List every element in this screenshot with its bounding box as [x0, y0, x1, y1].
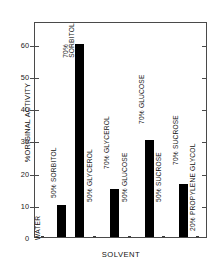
y-axis-tick-label: 40	[21, 106, 29, 113]
y-axis-tick-label: 0	[25, 235, 29, 242]
y-axis-tick-inner	[35, 142, 39, 143]
bar	[179, 184, 188, 237]
y-axis-tick-inner	[35, 207, 39, 208]
category-label: 50% GLUCOSE	[122, 152, 129, 201]
y-axis-tick-right	[202, 110, 206, 111]
bar	[75, 44, 84, 237]
category-label: 20% PROPYLENE GLYCOL	[190, 143, 197, 230]
category-label: 50% SORBITOL	[51, 147, 58, 198]
category-label: 70% SUCROSE	[173, 115, 180, 165]
y-axis-tick-inner	[35, 110, 39, 111]
bar	[196, 236, 199, 237]
bar	[93, 236, 96, 237]
bar	[128, 236, 131, 237]
y-axis-tick-inner	[35, 175, 39, 176]
bar	[57, 205, 66, 237]
y-axis-tick-right	[202, 78, 206, 79]
category-label: WATER	[35, 216, 42, 240]
category-label: 50% GLYCEROL	[87, 149, 94, 202]
y-axis-tick-label: 30	[21, 139, 29, 146]
y-axis-tick-right	[202, 175, 206, 176]
bar	[162, 236, 165, 237]
category-label-line: SORBITOL	[69, 0, 76, 58]
category-label: 70%SORBITOL	[63, 0, 76, 58]
y-axis-tick-label: 10	[21, 203, 29, 210]
y-axis-tick-label: 50	[21, 74, 29, 81]
bar	[110, 189, 119, 237]
y-axis-tick-right	[202, 46, 206, 47]
chart-figure: %ORIGINAL ACTIVITY 1020304050600 WATER50…	[0, 0, 223, 268]
category-label: 50% SUCROSE	[156, 152, 163, 202]
plot-area: 1020304050600 WATER50% SORBITOL70%SORBIT…	[34, 22, 207, 238]
y-axis-tick-label: 60	[21, 42, 29, 49]
y-axis-tick-right	[202, 207, 206, 208]
category-label: 70% GLUCOSE	[139, 74, 146, 123]
y-axis-tick-right	[202, 142, 206, 143]
y-axis-tick-inner	[35, 78, 39, 79]
bar	[145, 140, 154, 237]
y-axis-tick-label: 20	[21, 171, 29, 178]
x-axis-title: SOLVENT	[34, 250, 208, 259]
y-axis-tick-inner	[35, 46, 39, 47]
category-label: 70% GLYCEROL	[104, 116, 111, 169]
